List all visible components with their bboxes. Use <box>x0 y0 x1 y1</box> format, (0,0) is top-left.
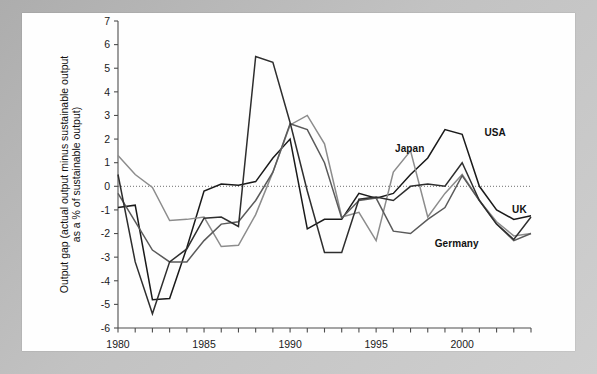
y-axis-tick-label: -1 <box>101 204 110 216</box>
y-axis-title: Output gap (actual output minus sustaina… <box>58 56 82 294</box>
series-line-usa <box>118 130 531 300</box>
series-annotation-usa: USA <box>485 127 506 138</box>
figure-frame: 76543210-1-2-3-4-5-619801985199019952000… <box>0 0 597 374</box>
svg-text:as a % of sustainable output): as a % of sustainable output) <box>70 107 82 242</box>
y-axis-tick-label: -2 <box>101 227 110 239</box>
series-annotation-japan: Japan <box>395 143 424 154</box>
line-chart: 76543210-1-2-3-4-5-619801985199019952000… <box>22 13 575 351</box>
y-axis-tick-label: -5 <box>101 298 110 310</box>
y-axis-tick-label: 5 <box>104 62 110 74</box>
series-annotation-uk: UK <box>512 204 527 215</box>
y-axis-tick-label: 0 <box>104 180 110 192</box>
series-line-japan <box>118 115 531 246</box>
x-axis-tick-label: 1980 <box>106 338 130 350</box>
x-axis-tick-label: 1990 <box>278 338 302 350</box>
y-axis-tick-label: 2 <box>104 133 110 145</box>
y-axis-tick-label: -3 <box>101 251 110 263</box>
svg-text:Output gap (actual output minu: Output gap (actual output minus sustaina… <box>58 56 70 294</box>
y-axis-tick-label: 1 <box>104 156 110 168</box>
x-axis-tick-label: 1985 <box>192 338 216 350</box>
series-annotation-germany: Germany <box>435 238 479 249</box>
y-axis-tick-label: 3 <box>104 109 110 121</box>
x-axis-tick-label: 2000 <box>450 338 474 350</box>
y-axis-tick-label: 4 <box>104 86 110 98</box>
y-axis-tick-label: 6 <box>104 38 110 50</box>
chart-panel: 76543210-1-2-3-4-5-619801985199019952000… <box>22 13 575 351</box>
y-axis-tick-label: -4 <box>101 275 110 287</box>
y-axis-tick-label: -6 <box>101 322 110 334</box>
y-axis-tick-label: 7 <box>104 15 110 27</box>
x-axis-tick-label: 1995 <box>364 338 388 350</box>
